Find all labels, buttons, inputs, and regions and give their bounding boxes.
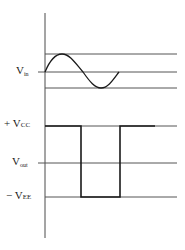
vin-label: Vin <box>16 65 29 80</box>
vee-label-prefix: − <box>6 189 15 201</box>
vcc-label: + VCC <box>4 118 30 131</box>
vcc-label-sub: CC <box>21 121 30 129</box>
vcc-label-prefix: + <box>4 117 13 129</box>
vout-square-wave <box>45 126 155 197</box>
vee-label: − VEE <box>6 190 31 203</box>
vee-label-sub: EE <box>23 193 32 201</box>
vee-label-main: V <box>15 189 23 201</box>
vcc-label-main: V <box>13 117 21 129</box>
vout-label-sub: out <box>20 162 28 168</box>
vout-label: Vout <box>12 156 28 171</box>
vout-label-main: V <box>12 155 20 167</box>
vin-label-main: V <box>16 64 24 76</box>
vin-sine-wave <box>45 54 119 88</box>
vin-label-sub: in <box>24 71 29 77</box>
